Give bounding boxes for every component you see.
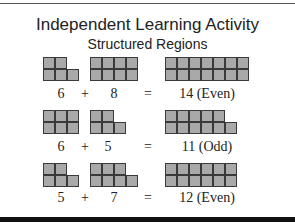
b-label: 8	[90, 86, 138, 102]
block-cell	[90, 57, 102, 69]
block-cell	[213, 110, 225, 122]
block-cell	[90, 69, 102, 81]
block-cell	[126, 175, 138, 187]
block-cell	[102, 57, 114, 69]
block-cell	[177, 110, 189, 122]
page-title: Independent Learning Activity	[0, 15, 295, 35]
bottom-rule	[0, 217, 295, 222]
block-cell	[165, 122, 177, 134]
block-cell	[225, 175, 237, 187]
plus-sign: +	[79, 139, 91, 155]
block-cell	[201, 175, 213, 187]
block-cell	[90, 122, 102, 134]
block-cell	[165, 110, 177, 122]
block-cell	[177, 57, 189, 69]
result-label: 12 (Even)	[165, 190, 249, 206]
block-cell	[102, 110, 114, 122]
block-cell	[201, 69, 213, 81]
block-cell	[201, 110, 213, 122]
block-cell	[102, 122, 114, 134]
block-cell	[126, 69, 138, 81]
result-label: 14 (Even)	[165, 86, 249, 102]
block-cell	[90, 175, 102, 187]
b-label: 5	[90, 139, 126, 155]
block-cell	[43, 122, 55, 134]
equals-sign: =	[142, 190, 154, 206]
block-cell	[43, 110, 55, 122]
block-cell	[114, 69, 126, 81]
block-cell	[213, 69, 225, 81]
block-cell	[43, 163, 55, 175]
block-cell	[102, 69, 114, 81]
block-cell	[43, 57, 55, 69]
block-cell	[189, 163, 201, 175]
block-cell	[189, 69, 201, 81]
plus-sign: +	[79, 190, 91, 206]
block-cell	[237, 69, 249, 81]
block-cell	[43, 175, 55, 187]
block-cell	[67, 69, 79, 81]
block-cell	[165, 69, 177, 81]
block-cell	[114, 163, 126, 175]
a-label: 5	[43, 190, 79, 206]
block-cell	[177, 122, 189, 134]
block-cell	[67, 122, 79, 134]
block-cell	[189, 122, 201, 134]
a-label: 6	[43, 139, 79, 155]
a-label: 6	[43, 86, 79, 102]
block-cell	[213, 175, 225, 187]
block-cell	[177, 69, 189, 81]
block-cell	[55, 110, 67, 122]
block-cell	[225, 122, 237, 134]
block-cell	[55, 57, 67, 69]
block-cell	[55, 163, 67, 175]
block-cell	[189, 110, 201, 122]
block-cell	[213, 122, 225, 134]
b-label: 7	[90, 190, 138, 206]
block-cell	[201, 163, 213, 175]
block-cell	[90, 110, 102, 122]
block-cell	[90, 163, 102, 175]
block-cell	[126, 57, 138, 69]
block-cell	[177, 175, 189, 187]
block-cell	[225, 69, 237, 81]
block-cell	[165, 175, 177, 187]
block-cell	[114, 122, 126, 134]
block-cell	[213, 57, 225, 69]
block-cell	[67, 110, 79, 122]
equals-sign: =	[142, 139, 154, 155]
block-cell	[213, 163, 225, 175]
result-label: 11 (Odd)	[165, 139, 249, 155]
block-cell	[225, 57, 237, 69]
block-cell	[67, 175, 79, 187]
top-rule	[0, 3, 295, 4]
block-cell	[165, 163, 177, 175]
block-cell	[55, 69, 67, 81]
block-cell	[55, 122, 67, 134]
block-cell	[114, 57, 126, 69]
block-cell	[114, 175, 126, 187]
block-cell	[189, 57, 201, 69]
equals-sign: =	[142, 86, 154, 102]
block-cell	[189, 175, 201, 187]
block-cell	[201, 122, 213, 134]
block-cell	[177, 163, 189, 175]
block-cell	[102, 175, 114, 187]
block-cell	[55, 175, 67, 187]
block-cell	[201, 57, 213, 69]
block-cell	[237, 57, 249, 69]
block-cell	[225, 163, 237, 175]
block-cell	[43, 69, 55, 81]
page-subtitle: Structured Regions	[0, 36, 295, 52]
plus-sign: +	[79, 86, 91, 102]
block-cell	[165, 57, 177, 69]
block-cell	[102, 163, 114, 175]
